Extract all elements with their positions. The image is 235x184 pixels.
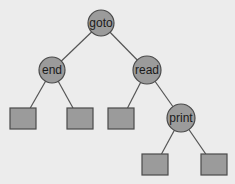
node-label: end [42,63,62,77]
leaf-node [67,108,93,129]
leaf-square [142,154,168,175]
node-label: print [169,111,193,125]
tree-edges [30,23,206,154]
leaf-square [10,108,36,129]
leaf-node [10,108,36,129]
leaf-node [108,108,134,129]
tree-nodes: gotoendreadprint [10,10,227,175]
node-label: goto [89,16,113,30]
tree-node-end: end [39,57,65,83]
node-label: read [135,63,159,77]
tree-node-print: print [167,104,195,132]
tree-node-goto: goto [88,10,114,36]
leaf-node [201,154,227,175]
leaf-square [201,154,227,175]
tree-node-read: read [133,56,161,84]
leaf-square [108,108,134,129]
leaf-square [67,108,93,129]
tree-diagram: gotoendreadprint [0,0,235,184]
leaf-node [142,154,168,175]
